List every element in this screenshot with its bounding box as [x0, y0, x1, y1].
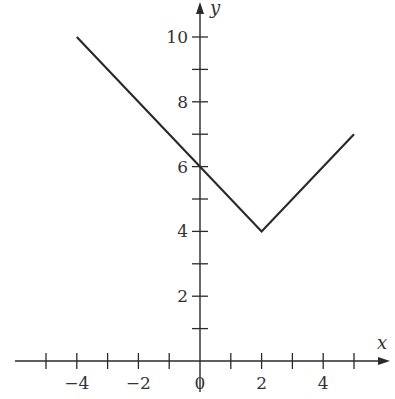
y-tick-label: 2: [177, 286, 188, 306]
x-axis-arrow-icon: [378, 357, 390, 365]
y-axis-label: y: [209, 0, 221, 18]
tick-labels: −4−2024246810: [64, 27, 328, 393]
y-tick-label: 6: [177, 157, 188, 177]
axes: [15, 2, 390, 392]
plot-area: −4−2024246810 x y: [0, 0, 395, 399]
x-tick-label: 0: [195, 373, 206, 393]
y-tick-label: 4: [177, 221, 188, 241]
chart-canvas: −4−2024246810 x y: [0, 0, 395, 399]
x-tick-label: 4: [318, 373, 329, 393]
y-tick-label: 10: [166, 27, 188, 47]
y-tick-label: 8: [177, 92, 188, 112]
x-axis-label: x: [377, 332, 387, 353]
x-tick-label: −2: [126, 373, 151, 393]
x-tick-label: 2: [256, 373, 267, 393]
function-line: [77, 37, 354, 231]
y-axis-arrow-icon: [196, 2, 204, 14]
x-tick-label: −4: [64, 373, 89, 393]
